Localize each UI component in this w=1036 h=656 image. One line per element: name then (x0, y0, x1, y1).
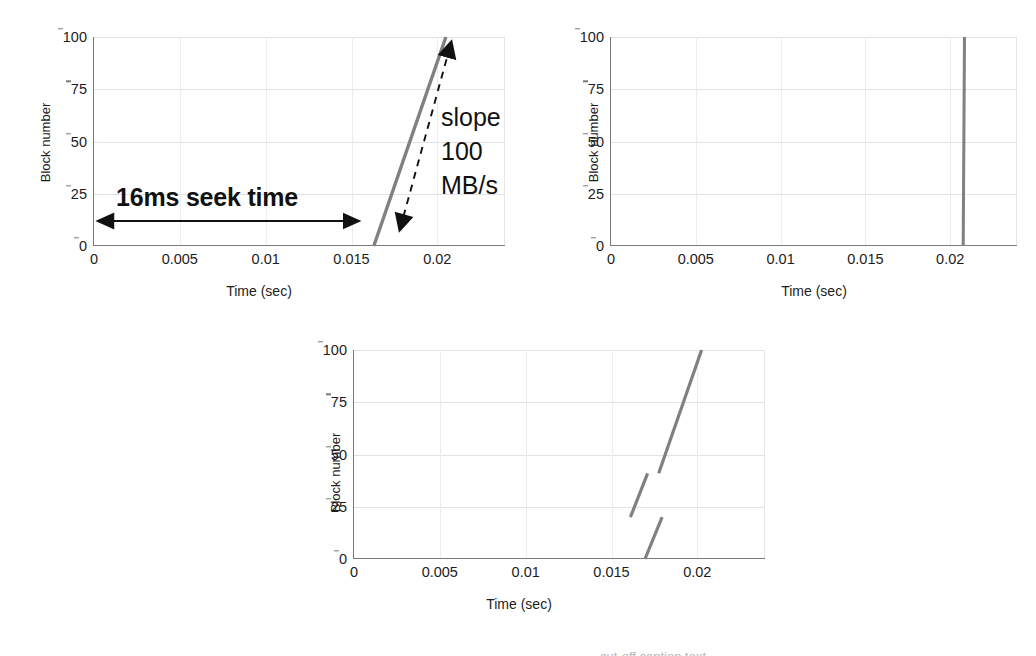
panel-b-ytick-0: 0 (596, 238, 604, 254)
panel-c-xtick-0015: 0.015 (593, 564, 629, 580)
panel-a-y-axis-title: Block number (38, 83, 53, 203)
panel-c-segment-2 (630, 473, 647, 517)
panel-a-ytick-25: 25 (71, 186, 87, 202)
panel-b-xtick-002: 0.02 (936, 251, 964, 267)
panel-c-x-axis-title: Time (sec) (459, 596, 579, 612)
panel-a-ytick-50: 50 (71, 134, 87, 150)
panel-b-ytick-50: 50 (588, 134, 604, 150)
panel-a-ytick-75: 75 (71, 81, 87, 97)
panel-b-xtick-001: 0.01 (766, 251, 794, 267)
panel-c-xtick-0005: 0.005 (422, 564, 458, 580)
panel-c-ytick-50: 50 (331, 447, 347, 463)
panel-b-ytick-100: 100 (580, 29, 604, 45)
panel-a-x-axis-title: Time (sec) (199, 283, 319, 299)
chart-panel-c: Block number 100 75 50 25 0 0 0.005 0.01… (260, 330, 780, 630)
panel-b-vector-layer (611, 37, 1018, 246)
panel-c-segment-3 (659, 350, 702, 473)
panel-b-ytick-75: 75 (588, 81, 604, 97)
panel-c-plot-area: 100 75 50 25 0 0 0.005 0.01 0.015 0.02 (353, 350, 765, 559)
panel-a-ytick-100: 100 (63, 29, 87, 45)
panel-c-xtick-0: 0 (350, 564, 358, 580)
panel-a-seek-label: 16ms seek time (116, 183, 298, 212)
bottom-caption-fragment: cut-off caption text (600, 649, 1030, 656)
panel-b-plot-area: 100 75 50 25 0 0 0.005 0.01 0.015 0.02 (610, 37, 1017, 246)
panel-a-xtick-0005: 0.005 (162, 251, 198, 267)
panel-c-xtick-002: 0.02 (683, 564, 711, 580)
chart-panel-b: Block number 100 75 50 25 0 0 0.005 0.01… (520, 0, 1036, 320)
panel-a-ytick-0: 0 (79, 238, 87, 254)
panel-b-xtick-0005: 0.005 (678, 251, 714, 267)
panel-c-ytick-100: 100 (323, 342, 347, 358)
panel-c-ytick-25: 25 (331, 499, 347, 515)
panel-a-xtick-0015: 0.015 (333, 251, 369, 267)
panel-a-xtick-0: 0 (90, 251, 98, 267)
panel-c-segment-1 (645, 517, 662, 559)
panel-a-transfer-line (374, 37, 446, 246)
panel-a-slope-label-line3: MB/s (441, 168, 498, 202)
panel-a-slope-label-line1: slope (441, 100, 501, 134)
panel-a-xtick-001: 0.01 (252, 251, 280, 267)
panel-c-xtick-001: 0.01 (512, 564, 540, 580)
panel-b-transfer-line (963, 37, 964, 246)
panel-b-xtick-0015: 0.015 (847, 251, 883, 267)
panel-c-ytick-0: 0 (339, 551, 347, 567)
chart-panel-a: Block number 100 75 50 25 0 0 0.005 0.01… (0, 0, 520, 320)
panel-c-vector-layer (354, 350, 766, 559)
panel-b-xtick-0: 0 (607, 251, 615, 267)
panel-b-x-axis-title: Time (sec) (754, 283, 874, 299)
panel-a-xtick-002: 0.02 (423, 251, 451, 267)
panel-b-ytick-25: 25 (588, 186, 604, 202)
panel-a-slope-label-line2: 100 (441, 134, 483, 168)
panel-c-ytick-75: 75 (331, 394, 347, 410)
panel-a-plot-area: 100 75 50 25 0 0 0.005 0.01 0.015 0.02 (93, 37, 505, 246)
